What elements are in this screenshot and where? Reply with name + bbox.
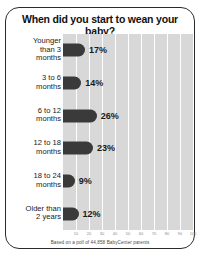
x-tick-label: 30 [100,231,104,236]
category-row: 6 to 12 months [6,99,61,132]
x-tick-label: 20 [87,231,91,236]
bar-value-label: 23% [97,143,115,153]
category-row: Older than 2 years [6,197,61,230]
bar [63,109,97,122]
category-label: 12 to 18 months [7,140,61,157]
bar-row: 12% [63,197,193,230]
bar [63,207,79,220]
x-tick-label: 40 [113,231,117,236]
bar-row: 17% [63,34,193,67]
bar-series: 17%14%26%23%9%12% [63,34,193,230]
bar-value-label: 14% [85,78,103,88]
x-tick-label: 50 [126,231,130,236]
category-row: 18 to 24 months [6,165,61,198]
category-row: Younger than 3 months [6,34,61,67]
category-label: Younger than 3 months [7,37,61,63]
category-label: 6 to 12 months [7,107,61,124]
x-tick-label: 60 [139,231,143,236]
bar-value-label: 17% [89,45,107,55]
bar-row: 9% [63,165,193,198]
bar-value-label: 9% [79,176,92,186]
plot-wrapper: 17%14%26%23%9%12% [63,34,193,230]
chart-card: When did you start to wean your baby? Yo… [5,7,195,249]
x-tick-label: 90 [178,231,182,236]
bar-row: 23% [63,132,193,165]
x-axis-ticks: 102030405060708090100 [63,231,193,239]
bar-row: 14% [63,67,193,100]
bar [63,142,93,155]
x-tick-label: 10 [74,231,78,236]
plot-area: 17%14%26%23%9%12% [63,34,193,230]
bar [63,76,81,89]
chart-footnote: Based on a poll of 44,858 BabyCenter par… [6,240,194,245]
bar-value-label: 26% [101,111,119,121]
x-tick-label: 80 [165,231,169,236]
category-label: Older than 2 years [7,205,61,222]
x-tick-label: 70 [152,231,156,236]
bar-value-label: 12% [83,209,101,219]
category-label: 18 to 24 months [7,172,61,189]
x-tick-label: 100 [190,231,197,236]
category-axis: Younger than 3 months3 to 6 months6 to 1… [6,34,61,230]
bar-row: 26% [63,99,193,132]
category-row: 3 to 6 months [6,67,61,100]
category-row: 12 to 18 months [6,132,61,165]
bar [63,174,75,187]
category-label: 3 to 6 months [7,74,61,91]
bar [63,44,85,57]
